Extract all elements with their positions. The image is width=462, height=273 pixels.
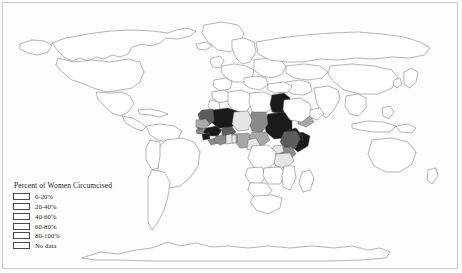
- region-africa: [196, 82, 324, 214]
- region-oceania: [368, 124, 438, 184]
- country-usa[interactable]: [56, 58, 144, 92]
- country-togo[interactable]: [232, 135, 236, 143]
- country-china-mongolia[interactable]: [328, 64, 398, 94]
- legend-title: Percent of Women Circumcised: [14, 181, 125, 190]
- legend-label-0-20: 0-20%: [35, 193, 53, 200]
- region-antarctica: [82, 242, 390, 261]
- country-mexico[interactable]: [96, 92, 134, 116]
- legend-label-60-80: 60-80%: [35, 223, 56, 230]
- country-algeria[interactable]: [228, 90, 252, 112]
- legend-item-40-60[interactable]: 40-60%: [13, 212, 125, 221]
- country-libya[interactable]: [249, 92, 272, 114]
- legend-swatch-0-20: [13, 193, 30, 200]
- region-south-america: [146, 124, 200, 230]
- legend: Percent of Women Circumcised 0-20% 20-40…: [13, 181, 125, 251]
- country-spain-portugal[interactable]: [213, 78, 232, 91]
- country-russia[interactable]: [256, 32, 430, 62]
- legend-swatch-40-60: [13, 213, 30, 220]
- country-alaska[interactable]: [20, 40, 52, 55]
- country-scandinavia[interactable]: [232, 38, 256, 64]
- country-niger[interactable]: [232, 111, 252, 131]
- map-figure: Percent of Women Circumcised 0-20% 20-40…: [0, 0, 462, 273]
- legend-item-20-40[interactable]: 20-40%: [13, 202, 125, 211]
- country-canada[interactable]: [52, 28, 196, 61]
- country-kazakhstan-central-asia[interactable]: [286, 64, 328, 80]
- legend-swatch-20-40: [13, 203, 30, 210]
- legend-swatch-no-data: [13, 242, 30, 249]
- legend-item-no-data[interactable]: No data: [13, 241, 125, 250]
- continent-antarctica[interactable]: [82, 242, 390, 261]
- country-papua-new-guinea[interactable]: [396, 124, 416, 133]
- region-southeast-asia[interactable]: [345, 94, 366, 116]
- country-madagascar[interactable]: [299, 170, 314, 192]
- legend-label-no-data: No data: [35, 242, 56, 249]
- legend-item-80-100[interactable]: 80-100%: [13, 232, 125, 241]
- country-argentina-chile[interactable]: [148, 170, 170, 230]
- region-caribbean[interactable]: [138, 109, 168, 117]
- country-south-africa[interactable]: [250, 195, 282, 214]
- legend-item-60-80[interactable]: 60-80%: [13, 222, 125, 231]
- country-philippines[interactable]: [382, 106, 394, 119]
- legend-swatch-80-100: [13, 232, 30, 239]
- country-new-zealand[interactable]: [427, 168, 438, 184]
- legend-label-40-60: 40-60%: [35, 213, 56, 220]
- legend-swatch-60-80: [13, 223, 30, 230]
- country-australia[interactable]: [368, 138, 416, 172]
- region-central-america[interactable]: [122, 116, 146, 131]
- country-mozambique-malawi[interactable]: [282, 166, 296, 190]
- country-dr-congo[interactable]: [248, 145, 276, 170]
- legend-label-20-40: 20-40%: [35, 203, 56, 210]
- region-balkans-italy[interactable]: [244, 76, 268, 90]
- legend-item-0-20[interactable]: 0-20%: [13, 193, 125, 202]
- country-peru-bolivia[interactable]: [146, 140, 160, 170]
- region-indonesia[interactable]: [352, 121, 396, 132]
- legend-label-80-100: 80-100%: [35, 232, 60, 239]
- country-guinea-bissau[interactable]: [196, 129, 204, 134]
- country-japan[interactable]: [404, 68, 418, 88]
